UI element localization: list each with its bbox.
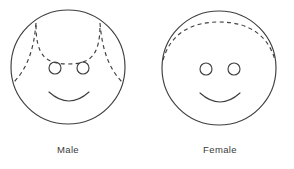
male-face-group — [11, 10, 125, 124]
female-caption: Female — [160, 145, 280, 155]
male-hairline-center-arc — [36, 25, 100, 64]
hairline-comparison-figure: Male Female — [0, 0, 294, 169]
female-right-eye — [228, 63, 240, 75]
male-right-eye — [77, 62, 89, 74]
faces-illustration — [0, 0, 294, 169]
female-left-eye — [200, 63, 212, 75]
male-mouth — [49, 92, 89, 101]
male-face-outline — [11, 10, 125, 124]
female-face-outline — [162, 11, 276, 125]
male-hairline-right-temple — [100, 23, 123, 83]
female-mouth — [200, 93, 240, 102]
male-left-eye — [49, 62, 61, 74]
female-face-group — [162, 11, 276, 125]
female-hairline-full-arc — [163, 22, 275, 60]
male-hairline-left-temple — [13, 23, 36, 83]
male-caption: Male — [8, 145, 128, 155]
